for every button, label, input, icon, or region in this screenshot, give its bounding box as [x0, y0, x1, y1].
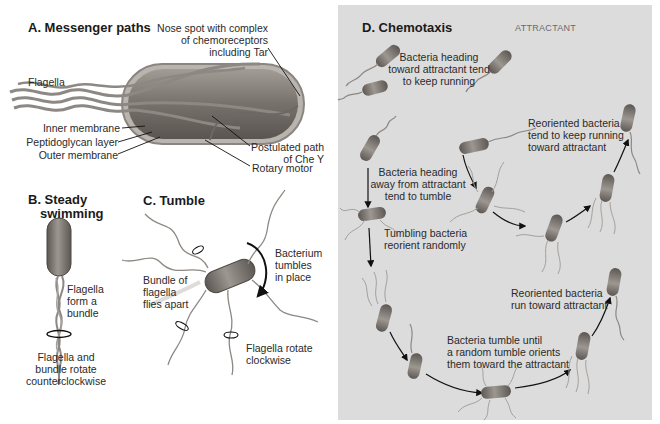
away-line-1: Bacteria heading: [370, 166, 466, 178]
flies-apart-line-2: flagella: [143, 286, 189, 298]
reoriented-keep-line-1: Reoriented bacteria: [528, 117, 624, 129]
reoriented-run-line-2: run toward attractant: [511, 299, 607, 311]
nose-spot-line-2: of chemoreceptors: [150, 34, 268, 46]
toward-line-1: Bacteria heading: [384, 51, 494, 63]
clockwise-line-2: clockwise: [246, 354, 313, 366]
rotary-motor-label: Rotary motor: [252, 162, 313, 174]
tumbles-line-1: Bacterium: [275, 247, 322, 259]
inner-membrane-label: Inner membrane: [0, 122, 120, 134]
bundle-line-3: bundle: [67, 307, 104, 319]
toward-line-2: toward attractant tend: [384, 63, 494, 75]
tumbling-reorient-label: Tumbling bacteria reorient randomly: [384, 227, 467, 251]
tumble-until-label: Bacteria tumble until a random tumble or…: [447, 334, 569, 370]
reoriented-keep-line-2: tend to keep running: [528, 129, 624, 141]
panel-b-title-line-1: B. Steady: [28, 193, 104, 207]
tumble-until-line-2: a random tumble orients: [447, 346, 569, 358]
flies-apart-line-1: Bundle of: [143, 274, 189, 286]
toward-line-3: to keep running: [384, 75, 494, 87]
outer-membrane-label: Outer membrane: [0, 149, 118, 161]
tumble-until-line-3: them toward the attractant: [447, 358, 569, 370]
clockwise-line-1: Flagella rotate: [246, 342, 313, 354]
nose-spot-label: Nose spot with complex of chemoreceptors…: [150, 22, 268, 58]
flagella-label: Flagella: [28, 76, 65, 88]
tumbles-in-place-label: Bacterium tumbles in place: [275, 247, 322, 283]
chey-path-line-1: Postulated path: [228, 141, 324, 153]
counterclockwise-label: Flagella and bundle rotate counterclockw…: [22, 351, 110, 387]
bundle-line-2: form a: [67, 295, 104, 307]
panel-d-title: D. Chemotaxis: [362, 20, 452, 35]
tumbling-line-2: reorient randomly: [384, 239, 467, 251]
flies-apart-line-3: flies apart: [143, 298, 189, 310]
rotation-line-1: Flagella and: [22, 351, 110, 363]
heading-toward-label: Bacteria heading toward attractant tend …: [384, 51, 494, 87]
flies-apart-label: Bundle of flagella flies apart: [143, 274, 189, 310]
nose-spot-line-3: including Tar: [150, 46, 268, 58]
panel-a-title: A. Messenger paths: [28, 20, 151, 35]
heading-away-label: Bacteria heading away from attractant te…: [370, 166, 466, 202]
reoriented-run-line-1: Reoriented bacteria: [511, 287, 607, 299]
tumble-until-line-1: Bacteria tumble until: [447, 334, 569, 346]
reoriented-run-label: Reoriented bacteria run toward attractan…: [511, 287, 607, 311]
away-line-3: tend to tumble: [370, 190, 466, 202]
peptidoglycan-layer-label: Peptidoglycan layer: [0, 136, 118, 148]
panel-b-title: B. Steady swimming: [28, 193, 104, 221]
panel-b-title-line-2: swimming: [28, 207, 104, 221]
tumbles-line-2: tumbles: [275, 259, 322, 271]
reoriented-keep-line-3: toward attractant: [528, 141, 624, 153]
bundle-line-1: Flagella: [67, 283, 104, 295]
reoriented-keep-running-label: Reoriented bacteria tend to keep running…: [528, 117, 624, 153]
away-line-2: away from attractant: [370, 178, 466, 190]
rotation-line-3: counterclockwise: [22, 375, 110, 387]
clockwise-label: Flagella rotate clockwise: [246, 342, 313, 366]
bundle-label: Flagella form a bundle: [67, 283, 104, 319]
tumbling-line-1: Tumbling bacteria: [384, 227, 467, 239]
tumbles-line-3: in place: [275, 271, 322, 283]
nose-spot-line-1: Nose spot with complex: [150, 22, 268, 34]
rotation-line-2: bundle rotate: [22, 363, 110, 375]
panel-c-title: C. Tumble: [143, 193, 205, 208]
attractant-gradient-label: Attractant: [515, 23, 576, 33]
